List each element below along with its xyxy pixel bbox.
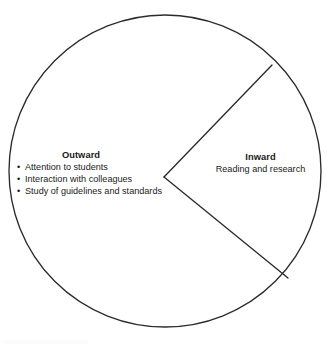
bullet-icon: • — [17, 186, 20, 197]
bullet-icon: • — [17, 162, 20, 173]
list-item-label: Study of guidelines and standards — [25, 186, 162, 196]
outward-sector-label-group: Outward • Attention to students • Intera… — [17, 150, 197, 198]
list-item: • Interaction with colleagues — [17, 174, 197, 185]
list-item: • Attention to students — [17, 162, 197, 173]
list-item-label: Attention to students — [25, 162, 108, 172]
list-item-label: Interaction with colleagues — [25, 174, 132, 184]
inward-subtext: Reading and research — [198, 164, 323, 175]
bullet-icon: • — [17, 174, 20, 185]
outward-heading: Outward — [17, 150, 197, 161]
circle-diagram: Outward • Attention to students • Intera… — [0, 0, 331, 349]
list-item: • Study of guidelines and standards — [17, 186, 197, 197]
inward-sector-label-group: Inward Reading and research — [198, 152, 323, 175]
scan-artifact — [4, 340, 88, 344]
outward-bullet-list: • Attention to students • Interaction wi… — [17, 162, 197, 197]
inward-heading: Inward — [198, 152, 323, 163]
